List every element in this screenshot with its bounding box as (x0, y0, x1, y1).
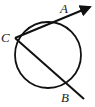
label-a: A (59, 1, 68, 16)
geometry-diagram: C A B (0, 0, 95, 107)
circle (15, 22, 81, 88)
ray-cb (15, 38, 84, 99)
label-c: C (1, 30, 10, 45)
label-b: B (61, 90, 69, 105)
ray-ca (15, 7, 90, 38)
